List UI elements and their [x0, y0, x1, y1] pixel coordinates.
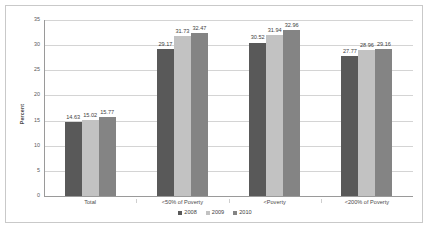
bar-group: 29.1731.7332.47	[136, 20, 228, 196]
y-axis-tick-label: 35	[20, 17, 40, 22]
gridline	[44, 196, 413, 197]
bar-value-label: 15.02	[83, 113, 97, 119]
bar[interactable]: 15.02	[82, 120, 99, 196]
bar-value-label: 29.17	[158, 42, 172, 48]
legend-swatch-icon	[178, 211, 182, 215]
bar[interactable]: 32.96	[283, 30, 300, 196]
x-axis-category-label: <Poverty	[264, 199, 286, 205]
bar-value-label: 32.47	[192, 26, 206, 32]
bar-slot: 15.02	[82, 20, 99, 196]
bar-slot: 29.16	[375, 20, 392, 196]
bar-slot: 30.52	[249, 20, 266, 196]
y-axis-tick-label: 30	[20, 42, 40, 47]
x-axis-category-label: <200% of Poverty	[345, 199, 389, 205]
bar-value-label: 27.77	[343, 49, 357, 55]
bar-group: 30.5231.9432.96	[229, 20, 321, 196]
bar-value-label: 29.16	[377, 42, 391, 48]
y-axis-tick-label: 25	[20, 68, 40, 73]
bar-value-label: 32.96	[285, 23, 299, 29]
y-axis-tick-label: 20	[20, 93, 40, 98]
x-axis-tick	[136, 199, 137, 203]
legend-item[interactable]: 2008	[178, 210, 196, 216]
bar[interactable]: 14.63	[65, 122, 82, 196]
bar-value-label: 31.73	[175, 29, 189, 35]
bar[interactable]: 31.94	[266, 35, 283, 196]
plot-area: 14.6315.0215.7729.1731.7332.4730.5231.94…	[44, 20, 413, 196]
chart-container: Percent 05101520253035 14.6315.0215.7729…	[5, 5, 423, 223]
bar[interactable]: 27.77	[341, 56, 358, 196]
bar-value-label: 28.96	[360, 43, 374, 49]
bar[interactable]: 30.52	[249, 43, 266, 196]
bar-value-label: 15.77	[100, 110, 114, 116]
bar[interactable]: 29.16	[375, 49, 392, 196]
y-axis-line	[44, 20, 45, 197]
bar[interactable]: 32.47	[191, 33, 208, 196]
x-axis-tick	[229, 199, 230, 203]
chart-legend: 200820092010	[6, 210, 424, 216]
bar[interactable]: 29.17	[157, 49, 174, 196]
bar-slot: 27.77	[341, 20, 358, 196]
x-axis-category-label: Total	[84, 199, 96, 205]
bar-group: 14.6315.0215.77	[44, 20, 136, 196]
legend-label: 2009	[212, 210, 224, 216]
x-axis-tick	[321, 199, 322, 203]
bar-slot: 32.47	[191, 20, 208, 196]
bar-group: 27.7728.9629.16	[321, 20, 413, 196]
y-axis-tick-label: 15	[20, 118, 40, 123]
bar-slot: 28.96	[358, 20, 375, 196]
y-axis-tick-labels: 05101520253035	[18, 20, 40, 196]
legend-item[interactable]: 2009	[206, 210, 224, 216]
bar[interactable]: 31.73	[174, 36, 191, 196]
bar-slot: 32.96	[283, 20, 300, 196]
bar-value-label: 31.94	[268, 28, 282, 34]
bar[interactable]: 28.96	[358, 50, 375, 196]
legend-item[interactable]: 2010	[233, 210, 251, 216]
bar-value-label: 30.52	[251, 35, 265, 41]
bar-value-label: 14.63	[66, 115, 80, 121]
legend-swatch-icon	[206, 211, 210, 215]
bar-slot: 31.73	[174, 20, 191, 196]
legend-label: 2010	[239, 210, 251, 216]
bar-slot: 14.63	[65, 20, 82, 196]
bar-slot: 29.17	[157, 20, 174, 196]
y-axis-tick-label: 0	[20, 193, 40, 198]
bar[interactable]: 15.77	[99, 117, 116, 196]
y-axis-tick-label: 5	[20, 168, 40, 173]
bar-slot: 15.77	[99, 20, 116, 196]
legend-swatch-icon	[233, 211, 237, 215]
x-axis-category-label: <50% of Poverty	[162, 199, 203, 205]
legend-label: 2008	[184, 210, 196, 216]
y-axis-tick-label: 10	[20, 143, 40, 148]
bar-slot: 31.94	[266, 20, 283, 196]
